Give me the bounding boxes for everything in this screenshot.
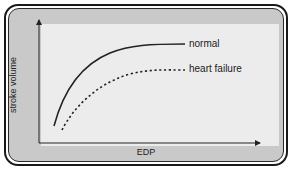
normal-curve — [54, 44, 185, 126]
y-axis-label: stroke volume — [8, 57, 18, 113]
heart-failure-label: heart failure — [189, 63, 242, 74]
x-axis-label: EDP — [137, 147, 156, 157]
normal-label: normal — [189, 38, 220, 49]
heart-failure-curve — [62, 70, 185, 130]
plot-svg — [0, 0, 291, 171]
